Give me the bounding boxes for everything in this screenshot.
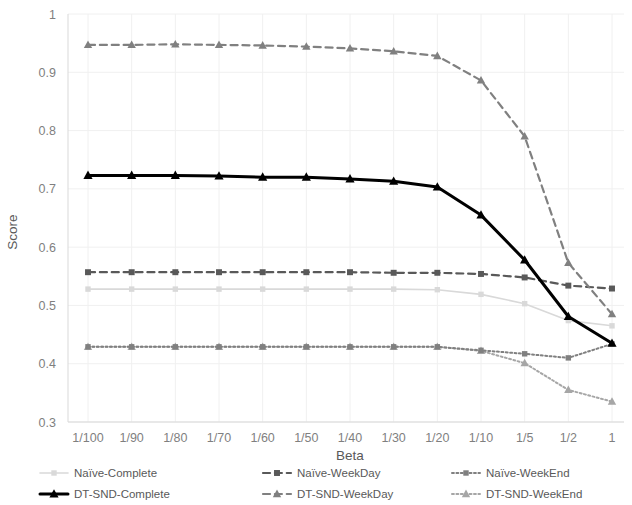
- legend-item-naive-weekday[interactable]: Naïve-WeekDay: [263, 467, 381, 479]
- data-point-marker: [303, 269, 309, 275]
- data-point-marker: [85, 286, 90, 291]
- data-point-marker: [564, 258, 572, 266]
- data-point-marker: [391, 270, 397, 276]
- data-point-marker: [391, 286, 396, 291]
- data-point-marker: [129, 286, 134, 291]
- x-tick-label: 1/90: [119, 431, 143, 445]
- x-tick-label: 1/10: [469, 431, 493, 445]
- x-tick-label: 1/2: [560, 431, 577, 445]
- data-point-marker: [129, 269, 135, 275]
- legend-item-dt-snd-complete[interactable]: DT-SND-Complete: [40, 488, 170, 500]
- legend-label: DT-SND-WeekEnd: [486, 488, 582, 500]
- legend-label: Naïve-WeekDay: [297, 467, 381, 479]
- data-point-marker: [609, 323, 614, 328]
- data-point-marker: [435, 344, 440, 349]
- x-tick-label: 1/100: [72, 431, 103, 445]
- data-point-marker: [609, 286, 615, 292]
- data-point-marker: [566, 355, 571, 360]
- data-point-marker: [347, 344, 352, 349]
- y-axis-title: Score: [5, 214, 20, 249]
- data-point-marker: [522, 274, 528, 280]
- data-point-marker: [478, 348, 483, 353]
- data-point-marker: [522, 351, 527, 356]
- data-point-marker: [434, 270, 440, 276]
- axes: [68, 14, 624, 422]
- data-point-marker: [173, 286, 178, 291]
- x-tick-label: 1/50: [294, 431, 318, 445]
- legend-item-dt-snd-weekday[interactable]: DT-SND-WeekDay: [263, 488, 394, 500]
- data-point-marker: [347, 269, 353, 275]
- legend-item-naive-weekend[interactable]: Naïve-WeekEnd: [452, 467, 570, 479]
- data-point-marker: [129, 344, 134, 349]
- data-point-marker: [216, 344, 221, 349]
- x-tick-label: 1/60: [250, 431, 274, 445]
- data-point-marker: [304, 344, 309, 349]
- y-tick-label: 0.8: [39, 124, 56, 138]
- chart-legend: Naïve-CompleteNaïve-WeekDayNaïve-WeekEnd…: [40, 467, 582, 500]
- x-tick-label: 1/30: [381, 431, 405, 445]
- y-tick-label: 0.5: [39, 299, 56, 313]
- x-tick-label: 1/20: [425, 431, 449, 445]
- legend-label: DT-SND-Complete: [74, 488, 170, 500]
- data-point-marker: [478, 292, 483, 297]
- data-point-marker: [260, 269, 266, 275]
- data-point-marker: [435, 287, 440, 292]
- y-tick-label: 0.7: [39, 182, 56, 196]
- x-tick-label: 1/5: [516, 431, 533, 445]
- x-axis-tick-labels: 1/1001/901/801/701/601/501/401/301/201/1…: [72, 431, 615, 445]
- data-point-marker: [347, 286, 352, 291]
- data-point-marker: [522, 301, 527, 306]
- data-point-marker: [173, 344, 178, 349]
- y-axis-tick-labels: 0.30.40.50.60.70.80.91: [39, 8, 56, 430]
- data-point-marker: [85, 344, 90, 349]
- data-point-marker: [85, 269, 91, 275]
- legend-label: Naïve-Complete: [74, 467, 157, 479]
- data-point-marker: [564, 386, 572, 394]
- x-tick-label: 1/40: [338, 431, 362, 445]
- y-tick-label: 0.4: [39, 357, 56, 371]
- legend-label: Naïve-WeekEnd: [486, 467, 570, 479]
- data-point-marker: [172, 269, 178, 275]
- data-point-marker: [260, 344, 265, 349]
- x-tick-label: 1/80: [163, 431, 187, 445]
- x-tick-label: 1/70: [207, 431, 231, 445]
- y-tick-label: 1: [49, 8, 56, 22]
- data-point-marker: [391, 344, 396, 349]
- data-point-marker: [304, 286, 309, 291]
- data-point-marker: [216, 286, 221, 291]
- legend-label: DT-SND-WeekDay: [297, 488, 394, 500]
- line-chart: 0.30.40.50.60.70.80.91 1/1001/901/801/70…: [0, 0, 632, 505]
- data-point-marker: [463, 470, 468, 475]
- data-point-marker: [274, 470, 280, 476]
- legend-item-naive-complete[interactable]: Naïve-Complete: [40, 467, 157, 479]
- data-point-marker: [565, 283, 571, 289]
- x-tick-label: 1: [609, 431, 616, 445]
- legend-item-dt-snd-weekend[interactable]: DT-SND-WeekEnd: [452, 488, 582, 500]
- data-point-marker: [51, 470, 56, 475]
- data-point-marker: [216, 269, 222, 275]
- data-point-marker: [260, 286, 265, 291]
- y-tick-label: 0.9: [39, 66, 56, 80]
- y-tick-label: 0.6: [39, 241, 56, 255]
- gridlines: [68, 14, 624, 422]
- data-point-marker: [478, 271, 484, 277]
- chart-canvas: 0.30.40.50.60.70.80.91 1/1001/901/801/70…: [0, 0, 632, 505]
- y-tick-label: 0.3: [39, 416, 56, 430]
- x-axis-title: Beta: [336, 448, 364, 463]
